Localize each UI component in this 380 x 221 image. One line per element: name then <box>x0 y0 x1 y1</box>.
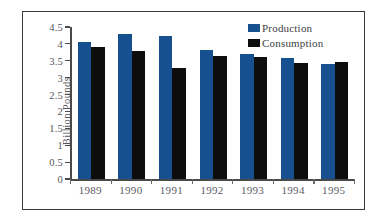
x-tick-label: 1993 <box>232 184 273 196</box>
y-tick-label: 0.5 <box>49 157 63 168</box>
bar-production-1991 <box>159 36 173 179</box>
bar-consumption-1995 <box>335 62 349 179</box>
x-axis-line <box>70 179 355 181</box>
bar-consumption-1992 <box>213 56 227 179</box>
legend-item-consumption: Consumption <box>248 35 324 50</box>
bar-group <box>118 27 145 179</box>
y-tick-label: 4 <box>58 38 63 49</box>
x-tick-label: 1994 <box>273 184 314 196</box>
bar-production-1989 <box>78 42 92 179</box>
bar-production-1995 <box>321 64 335 179</box>
legend-swatch-production-icon <box>248 24 260 32</box>
chart-figure: Billion Pounds 4.543.532.521.510.50 1989… <box>0 0 380 221</box>
chart-legend: Production Consumption <box>248 20 324 50</box>
bar-group <box>159 27 186 179</box>
y-tick-label: 0 <box>58 174 63 185</box>
y-tick-label: 2 <box>58 106 63 117</box>
bar-production-1993 <box>240 54 254 179</box>
bar-group <box>78 27 105 179</box>
bar-consumption-1989 <box>91 47 105 179</box>
y-tick-label: 2.5 <box>49 89 63 100</box>
x-tick-label: 1990 <box>111 184 152 196</box>
x-tick-mark <box>354 179 355 184</box>
y-tick-label: 4.5 <box>49 22 63 33</box>
bar-production-1990 <box>118 34 132 179</box>
bar-consumption-1994 <box>294 63 308 179</box>
bar-group <box>200 27 227 179</box>
x-tick-label: 1992 <box>192 184 233 196</box>
bar-group <box>321 27 348 179</box>
legend-label-consumption: Consumption <box>262 37 324 49</box>
y-tick-label: 1.5 <box>49 123 63 134</box>
x-tick-label: 1995 <box>313 184 354 196</box>
y-tick-label: 1 <box>58 140 63 151</box>
bar-consumption-1991 <box>172 68 186 179</box>
bar-consumption-1993 <box>254 57 268 179</box>
legend-swatch-consumption-icon <box>248 39 260 47</box>
y-tick-label: 3 <box>58 72 63 83</box>
bar-production-1994 <box>281 58 295 179</box>
bar-consumption-1990 <box>132 51 146 179</box>
x-tick-label: 1989 <box>70 184 111 196</box>
bar-production-1992 <box>200 50 214 179</box>
y-tick-label: 3.5 <box>49 55 63 66</box>
legend-label-production: Production <box>262 22 312 34</box>
legend-item-production: Production <box>248 20 324 35</box>
x-tick-label: 1991 <box>151 184 192 196</box>
